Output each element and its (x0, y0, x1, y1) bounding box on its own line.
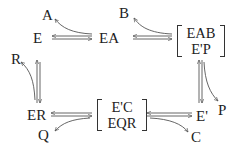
species-er: ER (27, 108, 46, 123)
right-bracket (142, 99, 147, 131)
species-a: A (42, 8, 53, 23)
species-r: R (11, 52, 21, 67)
species-e-prime: E' (196, 109, 208, 124)
arrow-b-binding (134, 18, 172, 34)
complex-eab-ep: EAB E'P (183, 25, 219, 57)
species-ea: EA (99, 31, 119, 46)
right-bracket (220, 25, 225, 57)
species-q: Q (38, 128, 49, 143)
left-bracket (97, 99, 102, 131)
reaction-arrows (0, 0, 245, 155)
species-e: E (33, 31, 42, 46)
arrow-q-release (55, 118, 90, 131)
complex-line-1: EAB (183, 25, 219, 41)
left-bracket (177, 25, 182, 57)
complex-line-1: E'C (103, 99, 141, 115)
species-b: B (119, 6, 129, 21)
arrow-c-binding (150, 118, 188, 132)
species-c: C (191, 130, 201, 145)
complex-line-2: E'P (183, 41, 219, 57)
arrow-r-release (21, 62, 35, 100)
complex-line-2: EQR (103, 115, 141, 131)
complex-ec-eqr: E'C EQR (103, 99, 141, 131)
arrow-p-release (204, 62, 218, 101)
species-p: P (218, 103, 226, 118)
arrow-a-binding (55, 19, 92, 34)
